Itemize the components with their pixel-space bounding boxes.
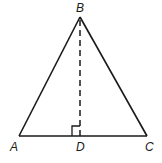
label-d: D (76, 140, 85, 154)
label-b: B (76, 1, 84, 15)
label-a: A (9, 140, 18, 154)
right-angle-marker (72, 126, 80, 136)
segment-ab (19, 17, 80, 136)
label-c: C (145, 140, 154, 154)
triangle-diagram: B A D C (0, 0, 162, 163)
segment-bc (80, 17, 147, 136)
